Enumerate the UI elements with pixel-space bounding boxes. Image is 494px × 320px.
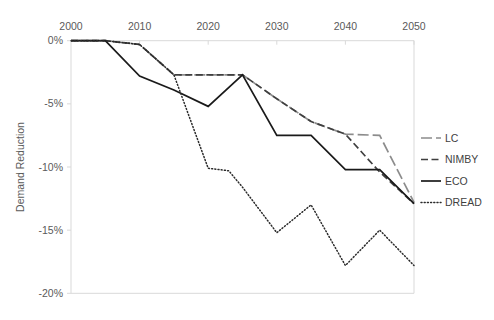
series-line-nimby xyxy=(71,41,414,204)
legend-label-dread: DREAD xyxy=(445,196,482,208)
x-tick-label: 2050 xyxy=(402,20,426,32)
x-axis-ticks xyxy=(140,41,414,45)
legend-label-lc: LC xyxy=(445,132,459,144)
demand-reduction-line-chart: 200020102020203020402050 0%-5%-10%-15%-2… xyxy=(0,0,494,320)
x-tick-label: 2030 xyxy=(265,20,289,32)
y-axis-title: Demand Reduction xyxy=(14,122,26,212)
data-series-group xyxy=(71,41,414,266)
y-tick-label: 0% xyxy=(48,34,63,46)
series-line-lc xyxy=(71,41,414,203)
x-tick-label: 2010 xyxy=(128,20,152,32)
series-line-eco xyxy=(71,41,414,204)
x-tick-label: 2040 xyxy=(334,20,358,32)
y-axis-tick-labels: 0%-5%-10%-15%-20% xyxy=(38,34,63,299)
chart-container: 200020102020203020402050 0%-5%-10%-15%-2… xyxy=(0,0,494,320)
y-tick-label: -20% xyxy=(38,287,63,299)
y-tick-label: -10% xyxy=(38,161,63,173)
x-tick-label: 2020 xyxy=(197,20,221,32)
y-tick-label: -15% xyxy=(38,224,63,236)
x-tick-label: 2000 xyxy=(59,20,83,32)
chart-legend: LCNIMBYECODREAD xyxy=(421,132,482,209)
legend-label-nimby: NIMBY xyxy=(445,153,478,165)
y-axis-ticks xyxy=(67,41,71,294)
plot-frame xyxy=(71,41,414,294)
y-tick-label: -5% xyxy=(44,97,63,109)
x-axis-tick-labels: 200020102020203020402050 xyxy=(59,20,426,32)
legend-label-eco: ECO xyxy=(445,175,468,187)
